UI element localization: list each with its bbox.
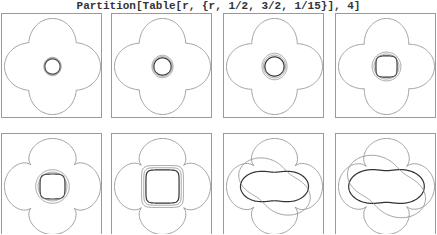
plot-panel-4 xyxy=(335,13,436,118)
inner-ring xyxy=(36,170,70,204)
inner-ring xyxy=(349,170,425,204)
inner-ring xyxy=(240,171,308,201)
plot-panel-3 xyxy=(223,13,324,118)
inner-ring xyxy=(263,55,285,78)
curve-plot xyxy=(112,134,212,234)
outer-curve xyxy=(227,19,323,115)
inner-ring xyxy=(40,174,65,199)
outer-curve xyxy=(5,19,101,115)
plot-panel-5 xyxy=(1,133,102,234)
inner-ring xyxy=(153,57,172,77)
inner-ring xyxy=(38,172,67,201)
inner-ring xyxy=(154,58,171,75)
inner-ring xyxy=(376,56,397,77)
inner-ring xyxy=(265,57,284,76)
inner-ring xyxy=(239,158,311,215)
plot-panel-8 xyxy=(335,133,436,234)
curve-plot xyxy=(2,134,102,234)
plot-panel-2 xyxy=(111,13,212,118)
curve-plot xyxy=(224,14,324,118)
plot-panel-1 xyxy=(1,13,102,118)
outer-curve xyxy=(5,139,101,235)
outer-curve xyxy=(339,139,435,235)
inner-ring xyxy=(44,58,60,75)
curve-plot xyxy=(224,134,324,234)
code-title: Partition[Table[r, {r, 1/2, 3/2, 1/15}],… xyxy=(0,0,437,12)
curve-plot xyxy=(336,14,436,118)
plot-panel-7 xyxy=(223,133,324,234)
inner-ring xyxy=(374,54,399,79)
curve-plot xyxy=(2,14,102,118)
curve-plot xyxy=(112,14,212,118)
outer-curve xyxy=(115,19,211,115)
outer-curve xyxy=(115,139,211,235)
inner-ring xyxy=(152,55,173,77)
inner-ring xyxy=(348,155,426,217)
inner-ring xyxy=(146,170,179,203)
plot-panel-6 xyxy=(111,133,212,234)
inner-ring xyxy=(144,168,182,206)
outer-curve xyxy=(339,19,435,115)
inner-ring xyxy=(45,59,60,74)
inner-ring xyxy=(44,57,61,75)
curve-plot xyxy=(336,134,436,234)
